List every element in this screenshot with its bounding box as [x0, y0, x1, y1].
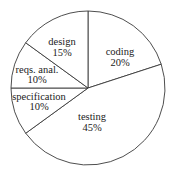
slice-label-coding: coding: [106, 46, 135, 57]
slice-value-testing: 45%: [82, 122, 102, 133]
slice-value-design: 15%: [52, 47, 72, 58]
slice-label-design: design: [48, 36, 76, 47]
slice-value-specification: 10%: [29, 101, 49, 112]
pie-chart: coding 20% testing 45% specification 10%…: [0, 0, 175, 176]
slice-value-reqs-anal: 10%: [27, 74, 47, 85]
slice-value-coding: 20%: [110, 57, 130, 68]
slice-label-testing: testing: [78, 111, 107, 122]
pie-slices: [11, 11, 165, 165]
